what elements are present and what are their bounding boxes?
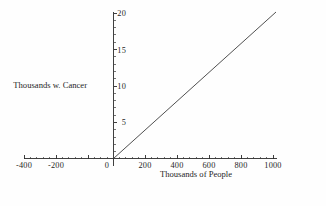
y-tick-label: 10 [112,82,126,91]
y-axis-major-ticks [114,13,118,122]
x-axis-title: Thousands of People [160,169,232,179]
x-tick-label: 200 [138,161,151,170]
x-tick-label: 800 [234,161,247,170]
y-axis-title: Thousands w. Cancer [13,80,87,90]
x-axis-group [24,155,277,159]
cancer-vs-population-line-chart: -400 -200 0 200 400 600 800 1000 5 10 15… [0,0,326,206]
x-tick-label: -200 [48,161,64,170]
x-tick-label: 1000 [264,161,281,170]
origin-tick-label: 0 [105,161,109,170]
y-tick-label: 5 [112,118,126,127]
x-tick-label: -400 [16,161,32,170]
y-tick-label: 15 [112,45,126,54]
cancer-incidence-line [114,12,277,159]
data-series-group [114,12,277,159]
y-tick-label: 20 [112,9,126,18]
x-axis-major-ticks [24,155,273,159]
